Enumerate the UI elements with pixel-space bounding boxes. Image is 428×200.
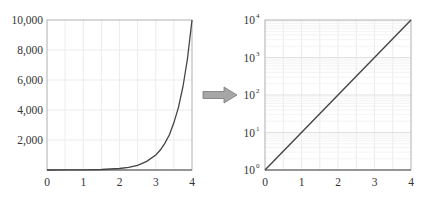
svg-text:1: 1 [80, 176, 86, 188]
svg-text:0: 0 [262, 176, 268, 188]
svg-text:4: 4 [189, 176, 195, 188]
svg-text:2: 2 [256, 87, 260, 95]
svg-text:0: 0 [44, 176, 50, 188]
svg-text:4: 4 [256, 12, 260, 20]
svg-text:10: 10 [244, 127, 256, 139]
left-x-ticks: 0 1 2 3 4 [44, 176, 195, 188]
svg-text:0: 0 [256, 162, 260, 170]
svg-text:10: 10 [244, 164, 256, 176]
svg-text:3: 3 [256, 50, 260, 58]
svg-text:10: 10 [244, 89, 256, 101]
svg-text:1: 1 [299, 176, 305, 188]
svg-text:8,000: 8,000 [17, 44, 43, 57]
svg-text:2: 2 [335, 176, 341, 188]
svg-text:6,000: 6,000 [17, 74, 43, 87]
svg-text:2,000: 2,000 [17, 134, 43, 147]
arrow-right-icon [203, 87, 237, 103]
svg-text:3: 3 [372, 176, 378, 188]
figure: 0 1 2 3 4 2,000 4,000 6,000 8,000 10,000 [0, 0, 428, 200]
svg-text:10,000: 10,000 [11, 14, 43, 27]
right-y-ticks: 10 0 10 1 10 2 10 3 10 4 [244, 12, 261, 176]
svg-text:1: 1 [256, 125, 260, 133]
svg-text:3: 3 [153, 176, 159, 188]
left-grid [47, 20, 192, 170]
svg-text:4,000: 4,000 [17, 104, 43, 117]
linear-chart: 0 1 2 3 4 2,000 4,000 6,000 8,000 10,000 [11, 14, 195, 188]
right-x-ticks: 0 1 2 3 4 [262, 176, 414, 188]
svg-text:10: 10 [244, 52, 256, 64]
log-chart: 0 1 2 3 4 10 0 10 1 10 2 10 3 10 4 [244, 12, 415, 188]
svg-text:2: 2 [117, 176, 123, 188]
left-y-ticks: 2,000 4,000 6,000 8,000 10,000 [11, 14, 43, 147]
svg-text:4: 4 [408, 176, 414, 188]
svg-text:10: 10 [244, 14, 256, 26]
